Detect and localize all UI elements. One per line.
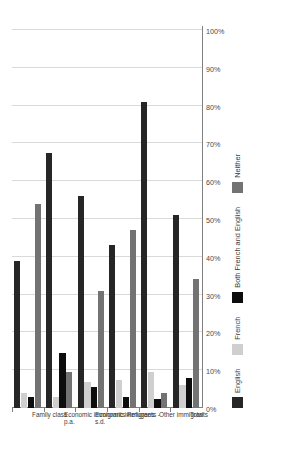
tick-mark — [202, 26, 203, 30]
tick-label-90%: 90% — [206, 65, 220, 74]
tick-mark — [202, 102, 203, 106]
category-label-line: s.d. — [95, 418, 160, 425]
bar — [91, 387, 97, 408]
bar — [109, 245, 115, 408]
tick-label-30%: 30% — [206, 292, 220, 301]
bar — [78, 196, 84, 408]
category-label: Refugees — [127, 411, 154, 418]
bar — [179, 385, 185, 408]
legend-label: Both French and English — [233, 207, 242, 288]
legend-swatch — [232, 397, 243, 408]
legend-swatch — [232, 182, 243, 193]
legend-item[interactable]: French — [232, 317, 243, 355]
category-tick — [12, 408, 13, 412]
tick-mark — [202, 291, 203, 295]
bar — [130, 230, 136, 408]
chart-legend: EnglishFrenchBoth French and EnglishNeit… — [232, 28, 249, 408]
bar — [66, 372, 72, 408]
category-tick — [170, 408, 171, 412]
legend-item[interactable]: English — [232, 369, 243, 408]
legend-item[interactable]: Both French and English — [232, 207, 243, 303]
tick-mark — [202, 139, 203, 143]
tick-mark — [202, 253, 203, 257]
bar — [35, 204, 41, 408]
legend-label: English — [233, 369, 242, 393]
bar — [193, 279, 199, 408]
category-label: Family class — [32, 411, 67, 418]
bar — [46, 153, 52, 408]
category-label-line: Total — [190, 411, 204, 418]
category-axis-line — [202, 30, 203, 408]
tick-mark — [202, 328, 203, 332]
tick-mark — [202, 64, 203, 68]
bar-group — [75, 30, 107, 408]
tick-mark — [202, 366, 203, 370]
tick-label-60%: 60% — [206, 178, 220, 187]
plot-area: 0%10%20%30%40%50%60%70%80%90%100% Family… — [12, 30, 202, 408]
tick-label-70%: 70% — [206, 140, 220, 149]
bar — [154, 399, 160, 408]
bar — [116, 380, 122, 408]
tick-mark — [202, 177, 203, 181]
legend-swatch — [232, 344, 243, 355]
bar — [59, 353, 65, 408]
category-label-line: Family class — [32, 411, 67, 418]
bar — [98, 291, 104, 408]
tick-label-50%: 50% — [206, 216, 220, 225]
bar-group — [107, 30, 139, 408]
bar — [173, 215, 179, 408]
tick-mark — [202, 404, 203, 408]
tick-label-20%: 20% — [206, 329, 220, 338]
legend-item[interactable]: Neither — [232, 154, 243, 193]
bar-group — [12, 30, 44, 408]
bar — [148, 372, 154, 408]
category-tick — [139, 408, 140, 412]
category-label: Total — [190, 411, 204, 418]
bar — [53, 397, 59, 408]
category-tick — [75, 408, 76, 412]
bar — [21, 393, 27, 408]
bar-group — [44, 30, 76, 408]
bar-group — [170, 30, 202, 408]
tick-label-10%: 10% — [206, 367, 220, 376]
bar — [28, 397, 34, 408]
tick-label-100%: 100% — [206, 27, 224, 36]
bar — [161, 393, 167, 408]
tick-label-80%: 80% — [206, 103, 220, 112]
legend-label: Neither — [233, 154, 242, 178]
chart-figure: 0%10%20%30%40%50%60%70%80%90%100% Family… — [0, 0, 288, 468]
bar — [186, 378, 192, 408]
legend-swatch — [232, 292, 243, 303]
category-tick — [107, 408, 108, 412]
category-label-line: Refugees — [127, 411, 154, 418]
bar — [84, 382, 90, 408]
tick-mark — [202, 215, 203, 219]
category-tick — [44, 408, 45, 412]
tick-label-40%: 40% — [206, 254, 220, 263]
bar — [123, 397, 129, 408]
bar-group — [139, 30, 171, 408]
legend-label: French — [233, 317, 242, 340]
bar — [14, 261, 20, 408]
bar — [141, 102, 147, 408]
